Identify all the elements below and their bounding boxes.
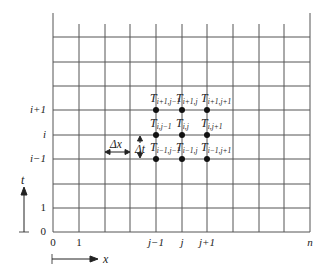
node-label: Ti+1,j+1	[201, 92, 231, 106]
delta-x-label: Δx	[110, 139, 122, 151]
node-dot	[204, 156, 210, 162]
node-label: Ti+1,j	[176, 92, 198, 106]
t-axis-label: t	[21, 174, 24, 186]
node-dot	[204, 107, 210, 113]
node-label: Ti,j+1	[201, 117, 223, 131]
x-axis-arrow-icon	[52, 254, 98, 264]
node-dot	[179, 132, 185, 138]
node-label: Ti−1,j	[176, 141, 198, 155]
column-label: 0	[50, 237, 56, 248]
node-dot	[153, 156, 159, 162]
column-label: j−1	[148, 237, 164, 248]
node-label: Ti,j−1	[150, 117, 172, 131]
node-dot	[153, 132, 159, 138]
x-axis-label: x	[103, 253, 108, 265]
column-label: 1	[76, 237, 82, 248]
node-label: Ti,j	[176, 117, 189, 131]
node-dot	[179, 156, 185, 162]
column-label: j	[180, 237, 183, 248]
delta-t-label: Δt	[135, 144, 145, 156]
node-dot	[179, 107, 185, 113]
row-label: i−1	[30, 153, 46, 164]
column-label: n	[307, 237, 313, 248]
node-dot	[153, 107, 159, 113]
node-label: Ti−1,j+1	[201, 141, 231, 155]
column-label: j+1	[199, 237, 215, 248]
row-label: i+1	[30, 104, 46, 115]
row-label: 0	[41, 226, 47, 237]
row-label: 1	[41, 202, 47, 213]
t-axis-arrow-icon	[19, 187, 29, 232]
row-label: i	[43, 129, 46, 140]
node-dot	[204, 132, 210, 138]
